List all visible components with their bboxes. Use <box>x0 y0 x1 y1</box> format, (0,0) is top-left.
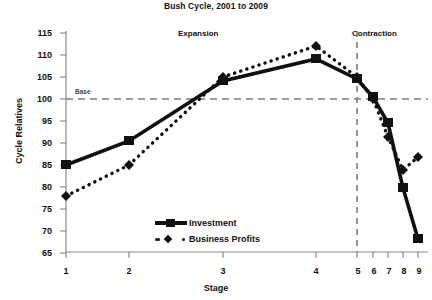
legend-item-business-profits: Business Profits <box>155 231 260 247</box>
chart-container: Bush Cycle, 2001 to 2009 Cycle Relatives… <box>0 0 432 300</box>
legend-label: Business Profits <box>189 234 260 244</box>
series-business-profits-markers <box>61 41 423 201</box>
chart-legend: Investment Business Profits <box>155 215 260 247</box>
legend-label: Investment <box>189 218 237 228</box>
series-business-profits-line <box>66 46 418 196</box>
legend-item-investment: Investment <box>155 215 260 231</box>
y-axis-ticks <box>60 33 66 253</box>
x-axis-ticks <box>66 252 418 258</box>
legend-line-swatch-icon <box>155 221 187 225</box>
chart-plot <box>0 0 432 300</box>
legend-dotted-swatch-icon <box>155 235 187 243</box>
series-investment-line <box>66 59 418 239</box>
